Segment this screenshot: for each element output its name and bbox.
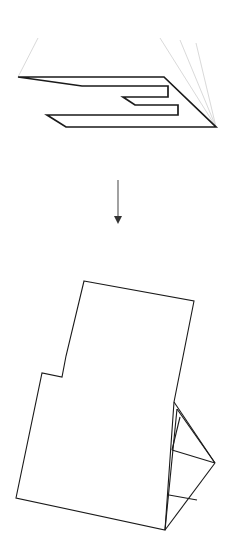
diagram-root xyxy=(0,0,231,552)
shape-unfolding-figure xyxy=(0,0,231,552)
